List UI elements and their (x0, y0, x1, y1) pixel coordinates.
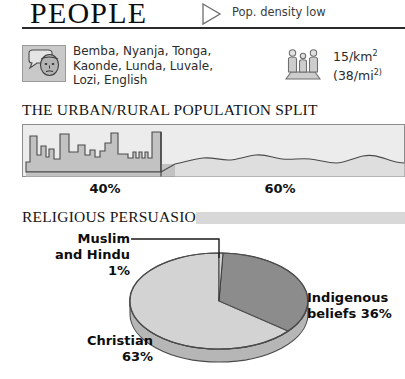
page-header: PEOPLE Pop. density low (0, 0, 405, 32)
indigenous-label-line-1: Indigenous (307, 290, 405, 306)
header-divider (22, 27, 405, 29)
density-imperial-text: (38/mi (333, 68, 374, 83)
religion-heading-band (196, 212, 405, 224)
muslim-label-line-3: 1% (22, 263, 130, 279)
pie-label-indigenous: Indigenous beliefs 36% (307, 290, 405, 322)
christian-label-line-1: Christian (28, 333, 153, 349)
density-metric: 15/km2 (333, 46, 382, 65)
muslim-label-line-1: Muslim (22, 231, 130, 247)
population-density-note: Pop. density low (232, 5, 326, 19)
density-values: 15/km2 (38/mi2) (333, 46, 382, 84)
religion-heading: RELIGIOUS PERSUASION (22, 208, 207, 226)
triangle-right-outline-icon (201, 2, 223, 26)
language-line-2: Kaonde, Lunda, Luvale, (73, 59, 263, 74)
languages-list: Bemba, Nyanja, Tonga, Kaonde, Lunda, Luv… (73, 44, 263, 88)
religion-pie-chart (128, 245, 310, 373)
indigenous-label-line-2: beliefs 36% (307, 306, 405, 322)
muslim-label-line-2: and Hindu (22, 247, 130, 263)
language-line-1: Bemba, Nyanja, Tonga, (73, 44, 263, 59)
urban-rural-split-chart (22, 124, 405, 177)
pie-label-muslim-hindu: Muslim and Hindu 1% (22, 231, 130, 279)
language-line-3: Lozi, English (73, 73, 263, 88)
density-metric-exponent: 2 (373, 49, 378, 58)
christian-label-line-2: 63% (28, 349, 153, 365)
urban-percent-label: 40% (60, 181, 150, 196)
density-imperial-exponent: 2) (374, 68, 382, 77)
pie-label-christian: Christian 63% (28, 333, 153, 365)
speech-bubble-face-icon (22, 45, 66, 82)
urban-rural-heading: THE URBAN/RURAL POPULATION SPLIT (22, 101, 318, 119)
page-title: PEOPLE (30, 0, 147, 30)
muslim-label-leader-line (131, 238, 221, 259)
density-imperial: (38/mi2) (333, 65, 382, 84)
rural-percent-label: 60% (235, 181, 325, 196)
density-metric-text: 15/km (333, 49, 373, 64)
three-people-icon (282, 45, 324, 83)
